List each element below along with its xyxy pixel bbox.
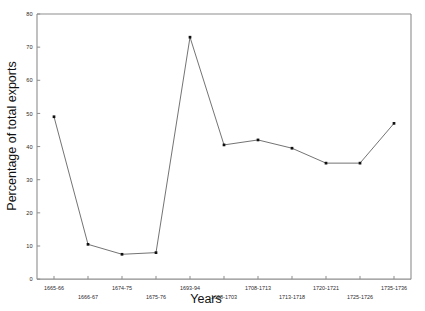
data-point-marker	[155, 251, 158, 254]
x-tick-label: 1725-1726	[347, 294, 373, 300]
data-point-marker	[121, 253, 124, 256]
y-tick-label: 80	[26, 11, 32, 17]
x-tick-label: 1675-76	[146, 294, 166, 300]
data-point-marker	[325, 162, 328, 165]
x-axis	[37, 14, 411, 279]
chart-container: 01020304050607080 1665-661666-671674-751…	[0, 0, 425, 311]
data-point-marker	[87, 243, 90, 246]
x-tick-label: 1713-1718	[279, 294, 305, 300]
y-tick-label: 0	[29, 276, 32, 282]
data-point-marker	[53, 115, 56, 118]
data-point-marker	[257, 139, 260, 142]
y-tick-label: 10	[26, 243, 32, 249]
x-tick-label: 1666-67	[78, 294, 98, 300]
y-tick-label: 30	[26, 177, 32, 183]
x-tick-label: 1720-1721	[313, 285, 339, 291]
data-point-marker	[291, 147, 294, 150]
y-tick-label: 70	[26, 44, 32, 50]
y-tick-label: 50	[26, 111, 32, 117]
data-point-marker	[223, 144, 226, 147]
x-axis-title: Years	[190, 292, 222, 306]
y-tick-label: 60	[26, 77, 32, 83]
line-chart: 01020304050607080 1665-661666-671674-751…	[0, 0, 425, 311]
x-axis-tick-labels: 1665-661666-671674-751675-761693-941698-…	[44, 285, 407, 300]
data-point-marker	[393, 122, 396, 125]
data-point-markers	[53, 36, 396, 256]
y-axis-title: Percentage of total exports	[5, 61, 19, 210]
x-tick-label: 1693-94	[180, 285, 200, 291]
x-tick-label: 1735-1736	[381, 285, 407, 291]
x-tick-label: 1665-66	[44, 285, 64, 291]
x-tick-label: 1708-1713	[245, 285, 271, 291]
y-tick-label: 20	[26, 210, 32, 216]
y-axis-tick-labels: 01020304050607080	[26, 11, 32, 282]
data-point-marker	[359, 162, 362, 165]
x-tick-label: 1674-75	[112, 285, 132, 291]
y-tick-label: 40	[26, 144, 32, 150]
y-axis	[37, 14, 40, 279]
data-point-marker	[189, 36, 192, 39]
